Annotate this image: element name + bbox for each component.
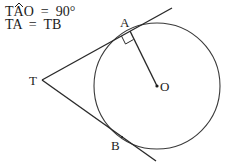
tangent-line-tb (42, 80, 156, 161)
right-angle-marker (122, 36, 134, 44)
geometry-figure: T A B O (0, 0, 228, 162)
center-dot (155, 84, 158, 87)
label-o: O (160, 79, 169, 94)
label-b: B (111, 138, 120, 153)
tangent-diagram: TAO = 90° TA = TB T A B O (0, 0, 228, 162)
label-a: A (120, 15, 130, 30)
point-b-dot (121, 136, 123, 138)
label-t: T (29, 73, 37, 88)
radius-oa (130, 31, 157, 86)
tangent-line-ta (42, 8, 172, 80)
